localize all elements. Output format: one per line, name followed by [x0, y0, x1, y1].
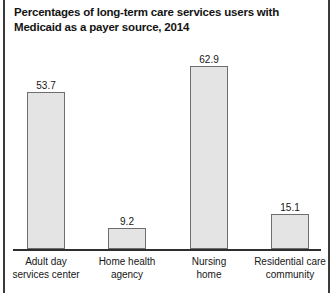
- x-tick-label-line: Residential care: [238, 256, 335, 269]
- bar-value-label: 15.1: [280, 202, 299, 213]
- bar-residential-care-community: 15.1: [271, 214, 309, 249]
- bar-value-label: 9.2: [120, 216, 134, 227]
- right-border-rule: [328, 0, 330, 293]
- bar-home-health-agency: 9.2: [108, 228, 146, 249]
- x-tick-label-residential-care-community: Residential care community: [238, 256, 335, 281]
- bar-value-label: 53.7: [36, 80, 55, 91]
- x-tick-label-line: community: [238, 269, 335, 282]
- x-axis-line: [13, 249, 321, 251]
- bar-nursing-home: 62.9: [190, 66, 228, 249]
- left-border-rule: [3, 0, 5, 293]
- chart-title: Percentages of long-term care services u…: [14, 5, 319, 35]
- bar-value-label: 62.9: [199, 54, 218, 65]
- plot-area: 53.7 9.2 62.9 15.1 Adult day services ce…: [9, 48, 324, 293]
- bar-adult-day-services-center: 53.7: [27, 92, 65, 249]
- chart-figure: Percentages of long-term care services u…: [0, 0, 335, 293]
